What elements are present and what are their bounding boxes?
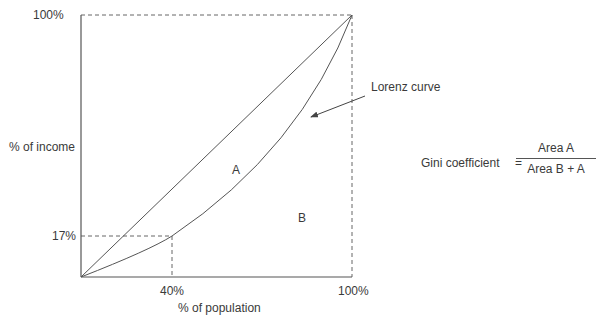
lorenz-curve-label: Lorenz curve	[371, 80, 440, 94]
x-axis-label: % of population	[178, 301, 261, 315]
region-a-label: A	[232, 163, 240, 177]
fraction-numerator: Area A	[516, 141, 596, 159]
region-b-label: B	[298, 211, 306, 225]
y-tick-17: 17%	[52, 229, 76, 243]
fraction-denominator: Area B + A	[516, 159, 596, 176]
equality-line	[81, 15, 352, 277]
y-axis-label: % of income	[9, 140, 75, 154]
y-tick-100: 100%	[33, 8, 64, 22]
gini-fraction: Area A Area B + A	[516, 141, 596, 176]
x-tick-100: 100%	[338, 284, 369, 298]
gini-label: Gini coefficient	[421, 156, 500, 170]
x-tick-40: 40%	[160, 284, 184, 298]
arrow-icon	[311, 96, 365, 117]
